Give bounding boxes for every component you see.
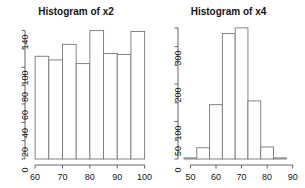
histogram-bar (117, 54, 131, 159)
histogram-bar (210, 105, 223, 159)
x-axis-tick-label: 90 (102, 172, 132, 182)
histogram-bar (76, 64, 90, 159)
y-axis-tick-label: 140 (19, 31, 31, 53)
y-axis-tick-label: 100 (19, 67, 31, 89)
histogram-bar (35, 56, 49, 159)
histogram-bar (261, 147, 274, 159)
histogram-bar (62, 44, 76, 159)
histogram-bar (235, 28, 248, 159)
histogram-bar (90, 31, 104, 159)
y-axis-tick-label: 200 (172, 84, 184, 106)
y-axis-tick-label: 300 (172, 47, 184, 69)
histogram-bar (49, 60, 63, 159)
histogram-bar (222, 33, 235, 159)
panel-histogram-x2: Histogram of x2 020406080100140607080901… (0, 0, 152, 188)
histogram-figure: Histogram of x2 020406080100140607080901… (0, 0, 305, 188)
panel-histogram-x4: Histogram of x4 0501002003005060708090 (152, 0, 305, 188)
histogram-bar (104, 54, 118, 159)
histogram-bar (197, 148, 210, 159)
histogram-bar (131, 32, 145, 160)
x-axis-tick-label: 60 (20, 172, 50, 182)
x-axis-tick-label: 90 (278, 172, 305, 182)
histogram-bar (184, 158, 197, 159)
x-axis-tick-label: 80 (75, 172, 105, 182)
x-axis-tick-label: 70 (47, 172, 77, 182)
histogram-bar (248, 101, 261, 159)
y-axis-tick-label: 100 (172, 122, 184, 144)
histogram-bar (274, 158, 287, 159)
